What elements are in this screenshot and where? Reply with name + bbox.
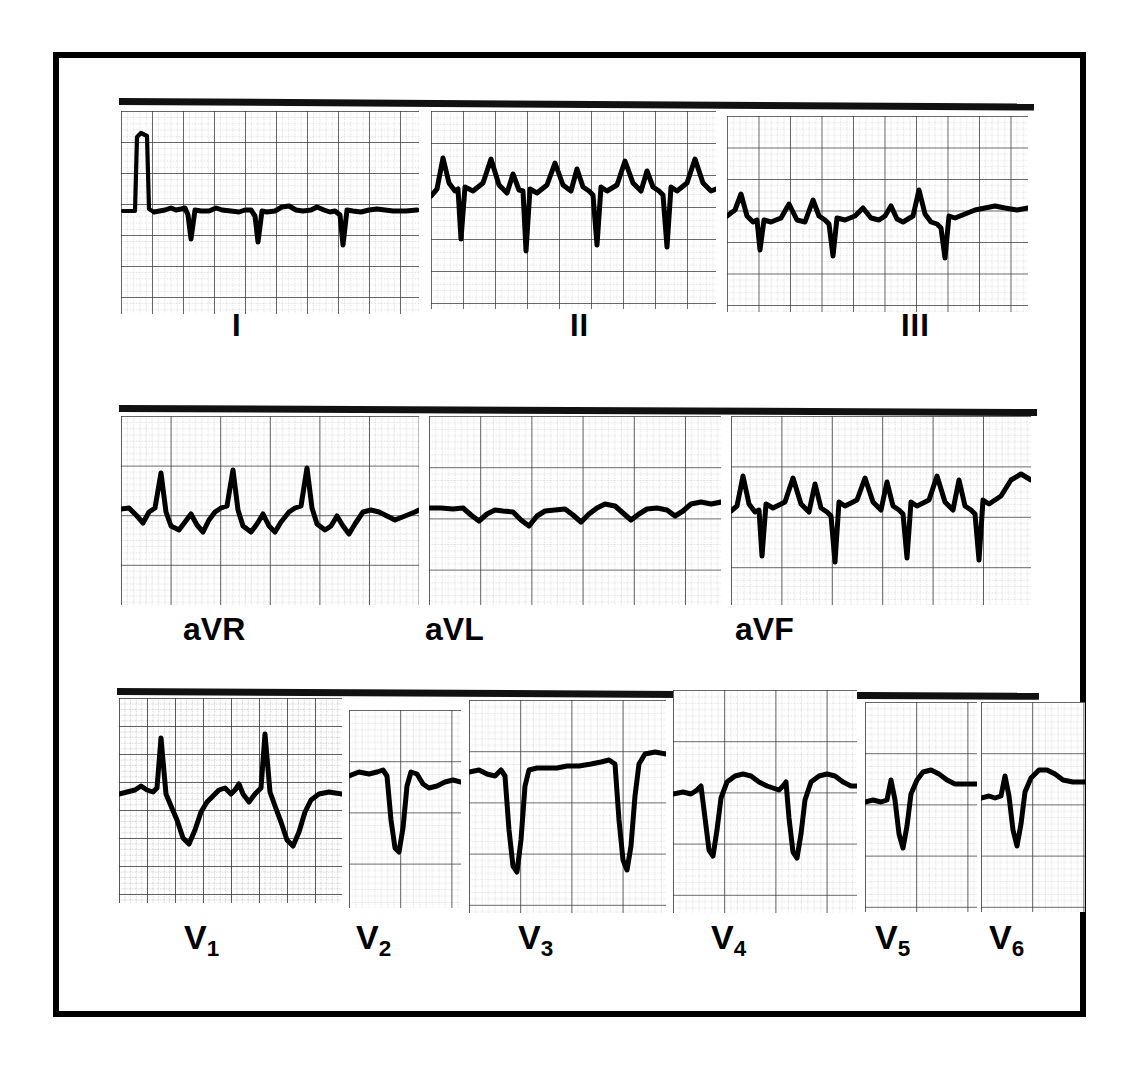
lead-label-v5: V5 [875,920,910,960]
strip-lead-v5 [865,702,977,912]
lead-label-i: I [232,310,242,341]
lead-label-v6-base: V [989,918,1012,956]
lead-label-v4: V4 [711,920,746,960]
row-1-top-bar [119,98,1034,111]
strip-lead-iii [727,116,1028,312]
lead-label-v6: V6 [989,920,1024,960]
lead-label-v2-sub: 2 [379,936,391,961]
strip-lead-avl [429,416,721,605]
lead-label-v5-sub: 5 [898,936,910,961]
strip-lead-v1 [119,698,342,903]
lead-label-v1-base: V [184,918,207,956]
lead-label-v2: V2 [356,920,391,960]
strip-lead-avf [731,416,1031,605]
strip-lead-v3 [469,700,666,913]
strip-lead-v4 [673,690,857,913]
ecg-trace-lead-avr [121,416,419,605]
ecg-trace-lead-ii [431,111,716,309]
lead-label-v3: V3 [518,920,553,960]
ecg-trace-lead-v2 [349,710,461,908]
strip-lead-i [121,111,419,314]
lead-label-v3-base: V [518,918,541,956]
lead-label-v2-base: V [356,918,379,956]
strip-lead-ii [431,111,716,309]
strip-lead-avr [121,416,419,605]
lead-label-avf: aVF [735,613,794,645]
ecg-figure: I II III [0,0,1143,1072]
ecg-trace-lead-v4 [673,690,857,913]
ecg-trace-lead-avf [731,416,1031,605]
lead-label-v1: V1 [184,920,219,960]
ecg-trace-lead-v5 [865,702,977,912]
strip-lead-v2 [349,710,461,908]
lead-label-avl: aVL [425,613,484,645]
ecg-trace-lead-v3 [469,700,666,913]
lead-label-v1-sub: 1 [207,936,219,961]
row-2-top-bar [119,405,1037,416]
ecg-trace-lead-avl [429,416,721,605]
ecg-trace-lead-v1 [119,698,342,903]
lead-label-v4-base: V [711,918,734,956]
lead-label-avr: aVR [183,613,245,645]
ecg-trace-lead-iii [727,116,1028,312]
lead-label-v4-sub: 4 [734,936,746,961]
lead-label-iii: III [901,310,930,341]
ecg-trace-lead-v6 [981,702,1085,912]
lead-label-v6-sub: 6 [1012,936,1024,961]
ecg-trace-lead-i [121,111,419,314]
strip-lead-v6 [981,702,1085,912]
lead-label-ii: II [570,310,589,341]
ecg-outer-frame: I II III [53,52,1086,1017]
lead-label-v3-sub: 3 [541,936,553,961]
lead-label-v5-base: V [875,918,898,956]
